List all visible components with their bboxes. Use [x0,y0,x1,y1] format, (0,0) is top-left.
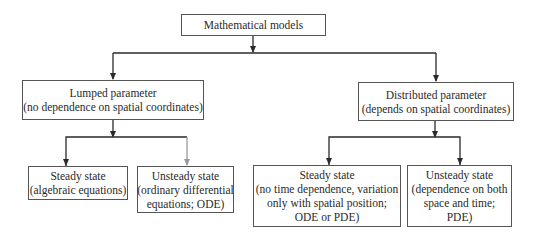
node-distributed-steady-state: Steady state (no time dependence, variat… [253,165,401,227]
arrow-head-icon [457,158,463,165]
node-line: Unsteady state [152,169,219,183]
node-lumped-unsteady-state: Unsteady state (ordinary differential eq… [137,166,234,213]
arrow-head-icon [250,46,256,53]
arrow-head-icon [110,73,116,80]
root-connector [113,35,436,53]
node-lumped-parameter: Lumped parameter (no dependence on spati… [22,80,204,120]
node-line: (ordinary differential [137,183,234,197]
lumped-branch [66,137,187,166]
arrow-head-icon [433,75,439,82]
distributed-branch [329,137,460,165]
node-line: (dependence on both [412,182,508,196]
node-line: Steady state [50,169,105,183]
node-line: (no time dependence, variation [256,182,398,196]
node-line: (algebraic equations) [30,183,127,197]
node-line: equations; ODE) [147,197,225,211]
node-subtitle: (no dependence on spatial coordinates) [23,100,202,114]
node-line: only with spatial position; [267,196,387,210]
arrow-head-icon [326,158,332,165]
node-label: Mathematical models [204,18,303,32]
node-title: Distributed parameter [386,88,487,102]
node-subtitle: (depends on spatial coordinates) [362,102,511,116]
node-distributed-parameter: Distributed parameter (depends on spatia… [358,82,514,121]
arrow-head-icon [63,159,69,166]
node-mathematical-models: Mathematical models [181,14,326,36]
node-line: Steady state [299,168,354,182]
node-line: PDE) [447,210,473,224]
arrow-head-icon [184,159,190,166]
node-lumped-steady-state: Steady state (algebraic equations) [28,166,128,200]
node-distributed-unsteady-state: Unsteady state (dependence on both space… [407,165,512,227]
node-line: ODE or PDE) [295,210,360,224]
node-line: space and time; [424,196,496,210]
node-title: Lumped parameter [69,86,156,100]
node-line: Unsteady state [426,168,493,182]
